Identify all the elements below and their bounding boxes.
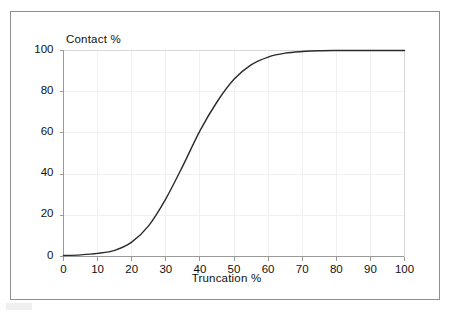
x-tick-label-0: 0 [49, 263, 79, 275]
x-tick-label-20: 20 [117, 263, 147, 275]
x-tick-label-80: 80 [321, 263, 351, 275]
x-tick-label-60: 60 [253, 263, 283, 275]
x-tick-label-30: 30 [151, 263, 181, 275]
x-tick-label-100: 100 [390, 263, 420, 275]
x-tick-label-40: 40 [185, 263, 215, 275]
y-axis-title: Contact % [66, 33, 121, 45]
x-tick-label-70: 70 [287, 263, 317, 275]
x-tick-label-10: 10 [83, 263, 113, 275]
y-tick-label-0: 0 [24, 249, 54, 261]
y-tick-label-100: 100 [24, 43, 54, 55]
x-tick-label-90: 90 [355, 263, 385, 275]
grid-lines [64, 51, 405, 257]
y-tick-label-20: 20 [24, 207, 54, 219]
x-tick-label-50: 50 [219, 263, 249, 275]
y-tick-label-40: 40 [24, 166, 54, 178]
y-tick-label-60: 60 [24, 125, 54, 137]
y-tick-label-80: 80 [24, 84, 54, 96]
